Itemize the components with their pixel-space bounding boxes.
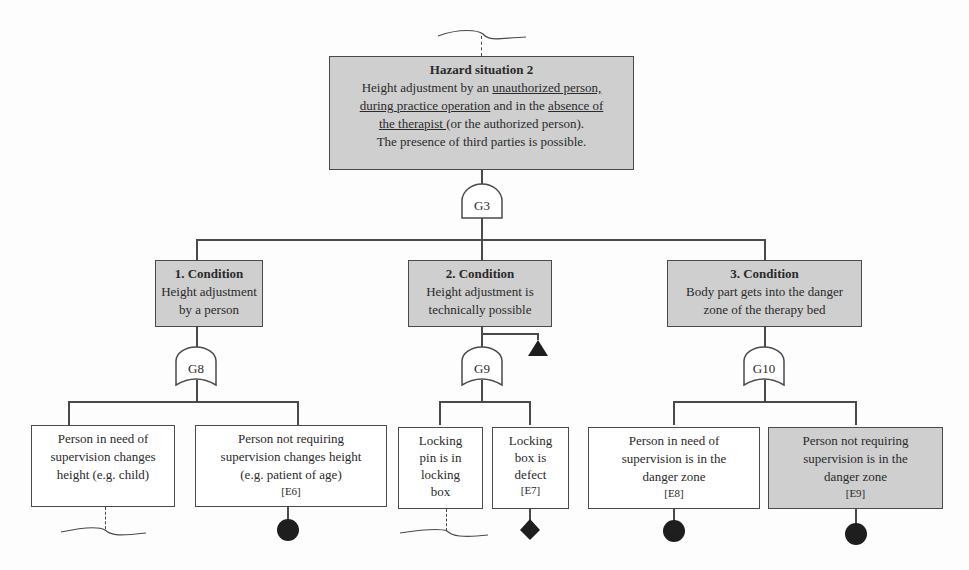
undeveloped-dashed-connector [446,509,447,531]
basic-event-circle-icon-e6[interactable] [276,518,300,542]
diamond-icon-e7[interactable] [519,519,541,541]
basic-event-circle-icon-e9[interactable] [844,522,868,546]
continuation-squiggle-left [0,0,969,570]
basic-event-circle-icon-e8[interactable] [662,519,686,543]
